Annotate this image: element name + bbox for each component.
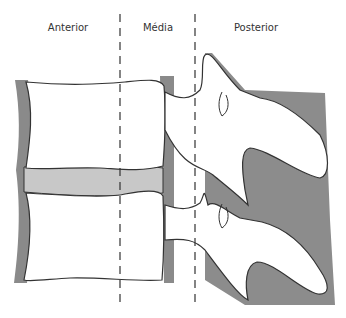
upper-vertebral-body bbox=[26, 80, 165, 169]
spine-diagram bbox=[0, 0, 346, 318]
lower-vertebral-body bbox=[24, 191, 164, 280]
